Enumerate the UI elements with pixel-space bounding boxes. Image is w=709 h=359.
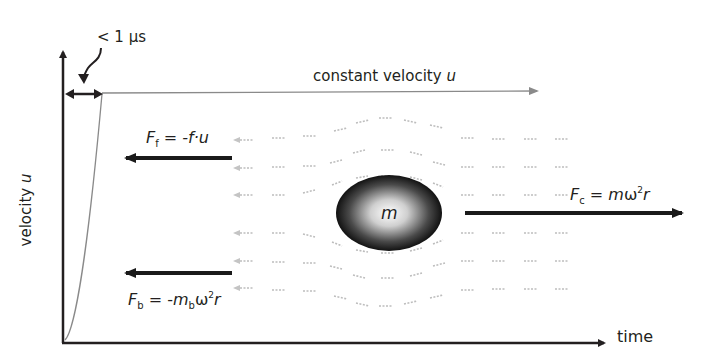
y-axis-label-var: u — [17, 174, 35, 184]
centrifugal-omega: ω — [624, 185, 637, 204]
centrifugal-F: F — [570, 185, 579, 204]
time-scale-pointer-arrow — [78, 48, 101, 84]
centrifugal-m: m — [608, 185, 624, 204]
buoyancy-force-label: Fb = -mbω2r — [128, 291, 221, 311]
buoyancy-eq: = - — [144, 290, 173, 309]
constant-velocity-label: constant velocity u — [313, 69, 456, 84]
centrifugal-eq: = — [585, 185, 609, 204]
friction-force-label: Ff = -f·u — [146, 130, 209, 149]
time-scale-label: < 1 µs — [97, 30, 146, 45]
centrifugal-force-label: Fc = mω2r — [570, 186, 650, 206]
friction-rhs: = -f·u — [159, 128, 209, 147]
y-axis-label: velocity u — [17, 174, 35, 247]
buoyancy-m: m — [173, 290, 189, 309]
constant-velocity-var: u — [446, 67, 456, 85]
buoyancy-F: F — [128, 290, 137, 309]
y-axis-label-text: velocity — [17, 183, 35, 246]
friction-F: F — [146, 128, 155, 147]
centrifugal-r: r — [643, 185, 650, 204]
constant-velocity-text: constant velocity — [313, 67, 446, 85]
buoyancy-omega: ω — [195, 290, 208, 309]
x-axis-label: time — [617, 329, 653, 345]
buoyancy-r: r — [214, 290, 221, 309]
flow-arrowheads — [233, 137, 240, 291]
time-scale-double-arrow — [65, 89, 103, 99]
mass-label: m — [381, 203, 398, 223]
diagram-canvas — [0, 0, 709, 359]
